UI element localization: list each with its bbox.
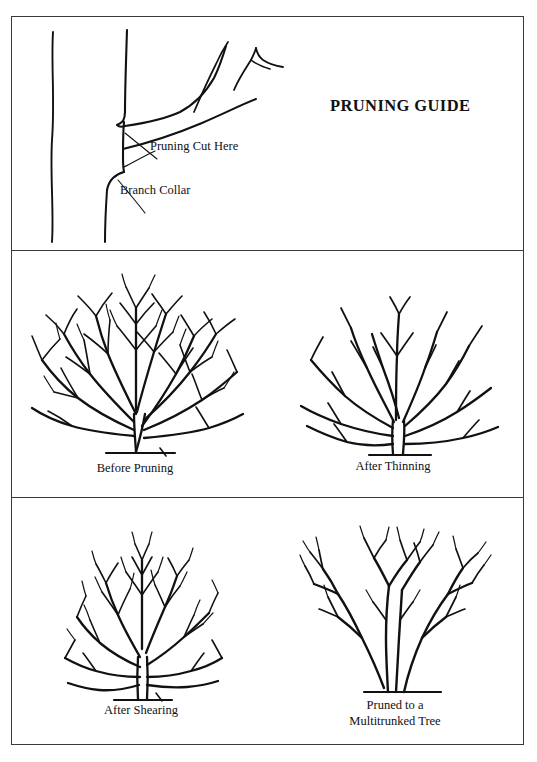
caption-line-1: Pruned to a (280, 698, 510, 714)
caption-multitrunked-tree: Pruned to a Multitrunked Tree (280, 698, 510, 729)
shrub-after-thinning-illustration (293, 278, 503, 458)
callout-branch-collar: Branch Collar (120, 183, 190, 198)
branch-collar-illustration (20, 20, 310, 245)
caption-line-2: Multitrunked Tree (280, 714, 510, 730)
caption-after-shearing: After Shearing (6, 703, 276, 719)
caption-after-thinning: After Thinning (268, 459, 518, 475)
caption-before-pruning: Before Pruning (0, 461, 270, 477)
shrub-before-pruning-illustration (24, 262, 248, 458)
callout-pruning-cut: Pruning Cut Here (150, 139, 238, 154)
page-canvas: PRUNING GUIDE Pruning Cut Here Branch Co… (0, 0, 537, 762)
shrub-after-shearing-illustration (52, 527, 234, 702)
page-title: PRUNING GUIDE (330, 96, 470, 116)
multitrunked-tree-illustration (296, 520, 502, 695)
